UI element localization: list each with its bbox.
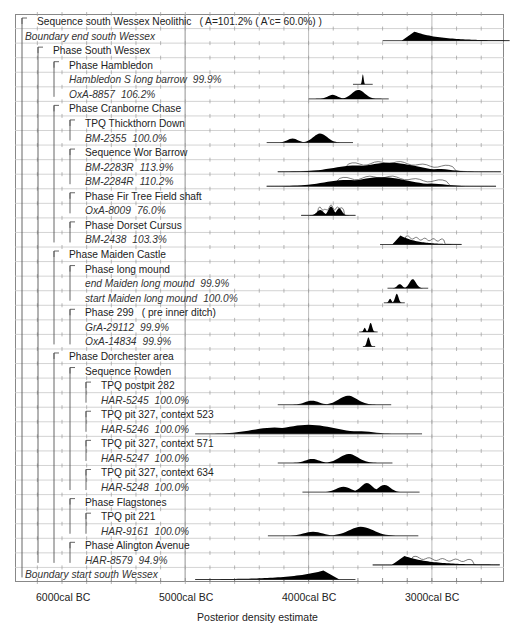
agreement-index: 100.0%	[132, 133, 167, 144]
row-label-text: Phase Dorset Cursus	[85, 220, 182, 231]
row-label-text: Boundary end south Wessex	[25, 31, 155, 42]
group-label: TPQ postpit 282	[101, 379, 175, 392]
agreement-index: 100.0%	[155, 395, 190, 406]
group-label: Phase 299( pre inner ditch)	[85, 306, 216, 319]
group-label: Phase Maiden Castle	[69, 248, 166, 261]
x-tick-5000: 5000cal BC	[159, 591, 213, 603]
date-label: HAR-9161100.0%	[101, 525, 189, 538]
row-label-text: Phase 299	[85, 307, 134, 318]
row-label-text: TPQ pit 327, context 571	[101, 438, 214, 449]
row-label-text: OxA-8009	[85, 205, 131, 216]
group-label: Phase Dorchester area	[69, 350, 174, 363]
row-label-text: HAR-9161	[101, 526, 149, 537]
posterior-distribution	[309, 90, 389, 99]
posterior-distribution	[278, 396, 391, 405]
row-label-text: HAR-5247	[101, 453, 149, 464]
agreement-index: 100.0%	[203, 293, 238, 304]
x-axis-title: Posterior density estimate	[0, 611, 515, 623]
row-label-text: TPQ postpit 282	[101, 380, 175, 391]
posterior-distribution	[195, 571, 355, 580]
row-label-text: Boundary start south Wessex	[25, 569, 158, 580]
posterior-distribution	[353, 74, 373, 84]
date-label: BM-2355100.0%	[85, 132, 167, 145]
date-label: BM-2284R110.2%	[85, 175, 174, 188]
agreement-index: 94.9%	[139, 555, 168, 566]
x-tick-4000: 4000cal BC	[282, 591, 336, 603]
group-label: Sequence Wor Barrow	[85, 146, 187, 159]
row-label-text: Phase South Wessex	[53, 45, 150, 56]
row-label-text: BM-2283R	[85, 162, 134, 173]
date-label: OxA-800976.0%	[85, 204, 166, 217]
row-label-text: Phase Alington Avenue	[85, 540, 190, 551]
date-label: Hambledon S long barrow99.9%	[69, 73, 222, 86]
posterior-distribution	[267, 134, 353, 143]
posterior-distribution	[195, 425, 422, 434]
posterior-distribution	[301, 206, 355, 215]
row-label-text: HAR-5245	[101, 395, 149, 406]
row-label-text: BM-2284R	[85, 176, 134, 187]
row-label-text: Phase Fir Tree Field shaft	[85, 191, 202, 202]
x-tick-3000: 3000cal BC	[405, 591, 459, 603]
row-label-text: TPQ pit 327, context 634	[101, 467, 214, 478]
posterior-distribution	[388, 279, 429, 288]
row-label-text: GrA-29112	[85, 322, 134, 333]
date-label: HAR-5248100.0%	[101, 481, 189, 494]
group-label: Phase long mound	[85, 263, 170, 276]
row-label-text: Sequence Rowden	[85, 366, 171, 377]
row-label-text: Phase Hambledon	[69, 60, 153, 71]
row-label-text: OxA-14834	[85, 336, 137, 347]
group-label: Phase South Wessex	[53, 44, 150, 57]
agreement-index: 110.2%	[140, 176, 174, 187]
row-label-text: end Maiden long mound	[85, 278, 194, 289]
group-label: Phase Fir Tree Field shaft	[85, 190, 202, 203]
date-label: start Maiden long mound100.0%	[85, 292, 238, 305]
row-label-text: TPQ Thickthorn Down	[85, 118, 185, 129]
row-label-text: Phase long mound	[85, 264, 170, 275]
group-label: Phase Hambledon	[69, 59, 153, 72]
agreement-index: 106.2%	[121, 89, 156, 100]
row-label-text: Phase Flagstones	[85, 497, 167, 508]
row-label-text: Sequence Wor Barrow	[85, 147, 187, 158]
row-suffix: ( pre inner ditch)	[142, 307, 216, 318]
date-label: OxA-1483499.9%	[85, 335, 171, 348]
row-suffix: ( A=101.2% ( A'c= 60.0%) )	[199, 16, 322, 27]
row-label-text: HAR-5248	[101, 482, 149, 493]
posterior-distribution	[383, 32, 510, 41]
agreement-index: 99.9%	[140, 322, 169, 333]
date-label: BM-2283R113.9%	[85, 161, 174, 174]
posterior-distribution	[363, 337, 375, 346]
row-label-text: Phase Dorchester area	[69, 351, 174, 362]
date-label: end Maiden long mound99.9%	[85, 277, 229, 290]
row-label-text: Sequence south Wessex Neolithic	[37, 16, 191, 27]
agreement-index: 100.0%	[155, 453, 190, 464]
agreement-index: 76.0%	[137, 205, 166, 216]
row-label-text: Phase Cranborne Chase	[69, 103, 181, 114]
group-label: Phase Cranborne Chase	[69, 102, 181, 115]
group-label: TPQ pit 221	[101, 510, 155, 523]
date-label: Boundary start south Wessex	[25, 568, 158, 581]
date-label: HAR-5247100.0%	[101, 452, 189, 465]
posterior-distribution	[278, 163, 501, 172]
row-label-text: TPQ pit 327, context 523	[101, 409, 214, 420]
date-label: HAR-5245100.0%	[101, 394, 189, 407]
agreement-index: 100.0%	[155, 526, 190, 537]
agreement-index: 99.9%	[200, 278, 229, 289]
row-label-text: HAR-5246	[101, 424, 149, 435]
row-label-text: BM-2355	[85, 133, 126, 144]
group-label: TPQ Thickthorn Down	[85, 117, 185, 130]
agreement-index: 103.3%	[132, 234, 167, 245]
posterior-distribution	[278, 454, 393, 463]
agreement-index: 113.9%	[140, 162, 174, 173]
group-label: Phase Alington Avenue	[85, 539, 190, 552]
date-label: BM-2438103.3%	[85, 233, 167, 246]
row-label-text: OxA-8857	[69, 89, 115, 100]
posterior-distribution	[384, 294, 405, 303]
group-label: TPQ pit 327, context 634	[101, 466, 214, 479]
posterior-distribution	[302, 483, 419, 492]
group-label: TPQ pit 327, context 571	[101, 437, 214, 450]
group-label: Sequence Rowden	[85, 365, 171, 378]
row-label-text: Hambledon S long barrow	[69, 74, 187, 85]
date-label: HAR-5246100.0%	[101, 423, 189, 436]
agreement-index: 99.9%	[193, 74, 222, 85]
row-label-text: TPQ pit 221	[101, 511, 155, 522]
